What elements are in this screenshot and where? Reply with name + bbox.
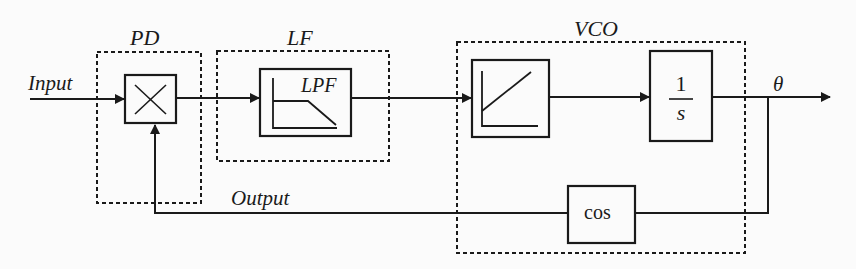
output-label: Output [231, 186, 289, 211]
cos-label: cos [584, 201, 611, 224]
pd-label: PD [130, 25, 159, 51]
lf-group-box [217, 51, 389, 161]
diagram-lines [0, 0, 856, 269]
linear-ramp-icon [482, 71, 538, 126]
integrator-denominator: s [661, 100, 701, 126]
pll-block-diagram: PD LF VCO Input Output θ LPF 1 s cos [0, 0, 856, 269]
theta-label: θ [773, 72, 783, 97]
multiplier-icon [135, 85, 166, 114]
vco-label: VCO [574, 16, 618, 42]
input-label: Input [28, 71, 72, 96]
feedback-to-cos-line [635, 97, 768, 213]
lf-label: LF [287, 25, 313, 51]
lpf-label: LPF [301, 74, 337, 97]
integrator-numerator: 1 [661, 71, 701, 97]
